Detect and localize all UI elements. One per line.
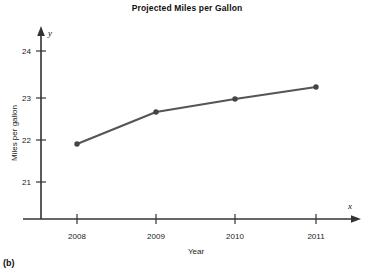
data-point-marker [232, 96, 237, 101]
x-axis-title: Year [188, 247, 205, 256]
figure-panel: Projected Miles per Gallon y x 24 23 22 … [0, 0, 374, 276]
y-tick-label: 23 [22, 94, 31, 103]
x-axis-arrowhead [351, 215, 361, 223]
x-tick-label: 2008 [68, 232, 86, 241]
x-tick-label: 2011 [307, 232, 325, 241]
data-point-marker [153, 109, 158, 114]
y-tick-label: 21 [22, 178, 31, 187]
x-axis-symbol: x [347, 201, 352, 211]
x-tick-label: 2010 [226, 232, 244, 241]
y-tick-label: 24 [22, 47, 31, 56]
x-tick-label: 2009 [147, 232, 165, 241]
data-line [77, 87, 316, 144]
data-point-marker [74, 141, 79, 146]
data-point-marker [313, 84, 318, 89]
y-tick-label: 22 [22, 136, 31, 145]
x-axis: x [23, 201, 361, 223]
data-markers [74, 84, 318, 146]
y-axis-tick-labels: 24 23 22 21 [22, 47, 31, 187]
line-chart-plot: y x 24 23 22 21 [0, 0, 374, 276]
panel-label: (b) [3, 258, 15, 268]
y-axis: y [37, 26, 52, 219]
y-axis-symbol: y [47, 28, 52, 38]
y-axis-title: Miles per gallon [10, 105, 19, 161]
y-axis-arrowhead [37, 26, 45, 36]
x-axis-tick-labels: 2008 2009 2010 2011 [68, 232, 325, 241]
